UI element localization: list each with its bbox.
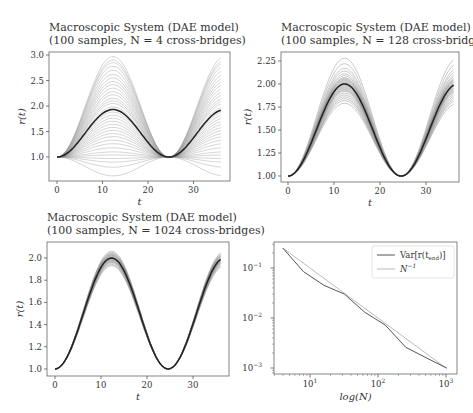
x-axis-label: log(N) [339, 391, 371, 402]
y-tick-label: 10−2 [242, 311, 262, 323]
x-tick-label: 103 [439, 377, 454, 389]
y-tick-label: 10−3 [242, 361, 262, 373]
legend-label-variance: Var[r(tend)] [399, 250, 446, 261]
x-tick-label: 101 [303, 377, 318, 389]
legend: Var[r(tend)]N−1 [372, 246, 454, 278]
y-tick-label: 10−1 [242, 261, 262, 273]
x-tick-label: 102 [371, 377, 386, 389]
panel-variance: 10110210310−310−210−1log(N)Var[r(tend)]N… [0, 0, 473, 413]
chart-variance-loglog: 10110210310−310−210−1log(N)Var[r(tend)]N… [0, 0, 473, 413]
